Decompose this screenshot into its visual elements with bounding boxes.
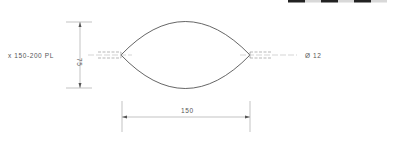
width-dim-label: 150 [181,107,194,114]
technical-drawing: 75 150 x 150-200 PL Ø 12 [0,0,393,150]
diameter-label: Ø 12 [305,52,322,59]
lens-outline [121,22,250,89]
left-fitting [88,52,132,58]
quantity-label: x 150-200 PL [8,52,54,59]
width-dimension [122,101,250,132]
height-dim-label: 75 [76,58,83,66]
scale-bar [288,0,387,3]
